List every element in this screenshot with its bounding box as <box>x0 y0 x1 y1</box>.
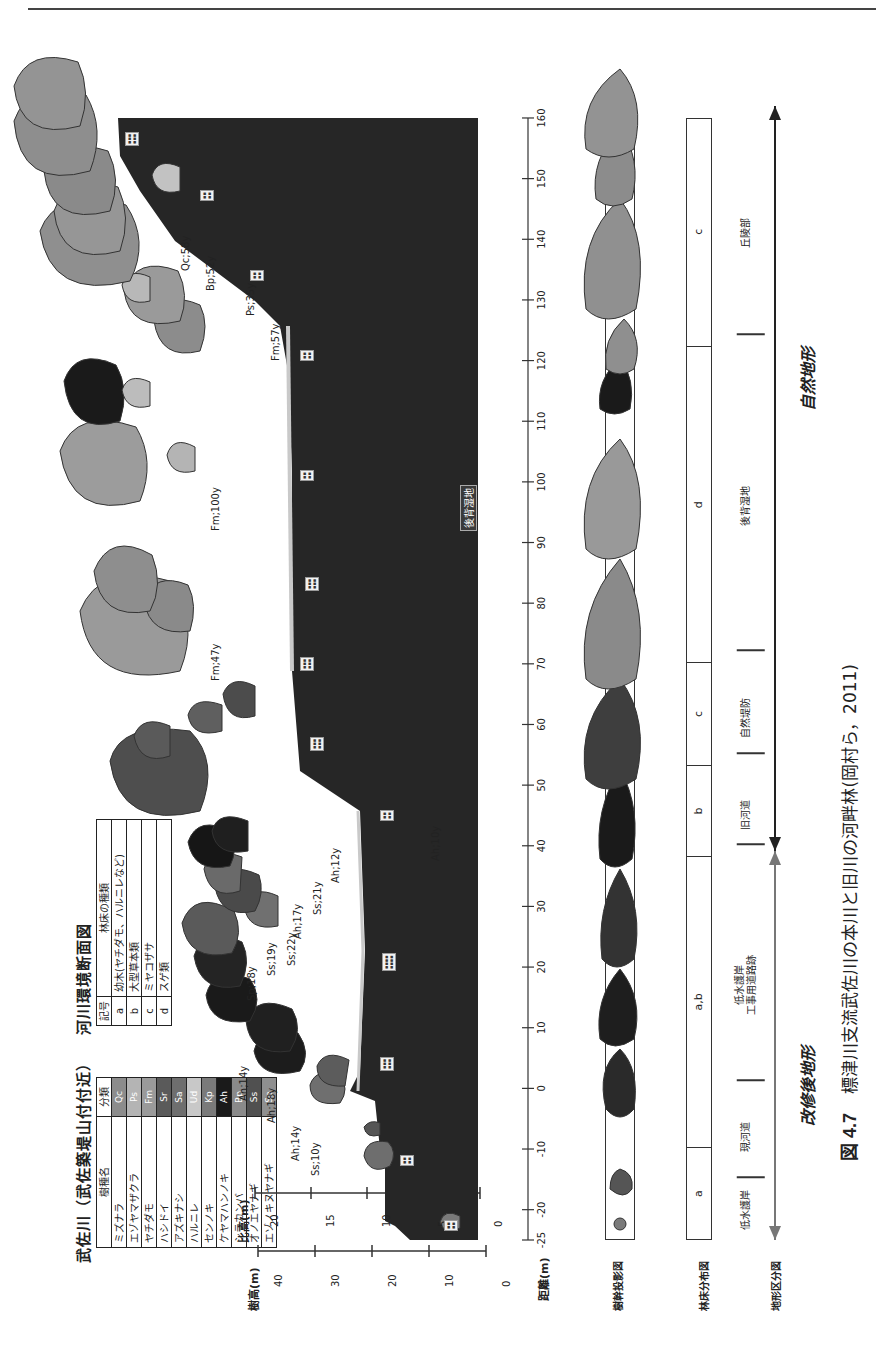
terrain-tag: ▪▪▪▪▪▪ <box>380 1057 394 1071</box>
floor-distribution-bar: aa,bbcdc <box>686 118 712 1240</box>
distance-tick-label: 140 <box>536 230 547 249</box>
distance-tick-labels: -25-20-100102030405060708090100110120130… <box>536 0 550 1371</box>
tree-label: Ah;12y <box>330 848 341 883</box>
landform-zone-label: 旧河道 <box>740 800 752 830</box>
floor-distribution-label: d <box>692 501 705 508</box>
caption-text: 標津川支流武佐川の本川と旧川の河畔林(岡村ら，2011) <box>840 664 860 1094</box>
distance-tick-label: 120 <box>536 351 547 370</box>
distance-tick-label: 40 <box>536 839 547 852</box>
landform-zone-label: 自然堤防 <box>740 698 752 738</box>
relative-height-ticks: 20 15 10 5 0 <box>247 1214 527 1227</box>
tree-label: Ah;18y <box>266 1088 277 1123</box>
relative-height-tick: 0 <box>471 1214 527 1227</box>
distance-tick-label: -25 <box>536 1232 547 1248</box>
relative-height-tick: 20 <box>247 1214 303 1227</box>
modified-landform-arrow <box>769 851 781 1240</box>
tree-height-tick: 30 <box>307 1274 364 1287</box>
figure-caption: 図 4.7 標津川支流武佐川の本川と旧川の河畔林(岡村ら，2011) <box>835 664 861 1161</box>
distance-tick-label: 80 <box>536 597 547 610</box>
projection-row-label: 樹幹投影図 <box>610 1261 625 1311</box>
tree-label: Ss;10y <box>310 1142 321 1176</box>
floor-distribution-label: b <box>692 807 705 814</box>
tree-label: Ah;14y <box>238 1066 249 1101</box>
terrain-tag: ▪▪▪▪▪▪ <box>125 132 139 146</box>
tree-label: Qc;58y <box>180 236 191 271</box>
distance-tick-label: 10 <box>536 1021 547 1034</box>
floor-distribution-cell: c <box>687 117 711 347</box>
landform-arrows <box>755 0 795 1371</box>
tree-height-tick: 0 <box>478 1274 535 1287</box>
floor-distribution-label: c <box>692 229 705 235</box>
landform-zone-label: 後背湿地 <box>740 486 752 526</box>
crown-projection-canvas <box>606 117 634 1239</box>
distance-tick-label: 160 <box>536 108 547 127</box>
distance-tick-label: 20 <box>536 961 547 974</box>
terrain-tag: ▪▪▪▪ <box>300 350 314 361</box>
tree-height-tick: 20 <box>364 1274 421 1287</box>
tree-height-tick: 10 <box>421 1274 478 1287</box>
floor-distribution-cell: a <box>687 1148 711 1239</box>
tree-label: Ah;10y <box>430 826 441 861</box>
terrain-annotation: 後背湿地 <box>460 485 477 531</box>
distance-tick-label: 110 <box>536 412 547 431</box>
distance-tick-label: -10 <box>536 1141 547 1157</box>
terrain-tag: ▪▪▪▪ <box>300 470 314 481</box>
caption-number: 図 4.7 <box>840 1113 860 1161</box>
distance-tick-label: 50 <box>536 779 547 792</box>
floor-distribution-cell: b <box>687 766 711 857</box>
distance-tick-label: 150 <box>536 169 547 188</box>
natural-landform-arrow <box>769 106 781 851</box>
tree-label: Bp;52y <box>205 256 216 291</box>
terrain-tag: ▪▪▪▪ <box>380 810 394 821</box>
relative-height-tick: 10 <box>359 1214 415 1227</box>
landform-zone-label: 現河道 <box>740 1122 752 1152</box>
terrain-tag: ▪▪▪▪ <box>250 270 264 281</box>
floor-distribution-label: a <box>692 1190 705 1197</box>
terrain-tag: ▪▪▪▪ <box>200 190 214 201</box>
distance-tick-label: 130 <box>536 290 547 309</box>
natural-landform-label: 自然地形 <box>795 347 819 411</box>
tree-label: Ss;21y <box>312 881 323 915</box>
distance-tick-label: 0 <box>536 1085 547 1091</box>
terrain-tag: ▪▪▪▪ <box>444 1220 458 1231</box>
floor-distribution-label: a,b <box>692 993 705 1010</box>
tree-height-ticks: 40 30 20 10 0 <box>250 1274 535 1287</box>
tree-label: Ah;17y <box>292 904 303 939</box>
tree-label: Sp;18y <box>246 966 257 1001</box>
terrain-tag: ▪▪▪▪▪▪ <box>310 737 324 751</box>
relative-height-tick: 5 <box>415 1214 471 1227</box>
tree-label: Fm;57y <box>270 323 281 361</box>
terrain-tag: ▪▪▪▪▪▪▪▪ <box>382 953 396 971</box>
terrain-tag: ▪▪▪▪ <box>400 1155 414 1166</box>
distance-tick-label: 90 <box>536 536 547 549</box>
distance-tick-label: -20 <box>536 1202 547 1218</box>
distance-tick-label: 60 <box>536 718 547 731</box>
floor-distribution-row-label: 林床分布図 <box>696 1261 711 1311</box>
floor-distribution-cell: c <box>687 663 711 766</box>
distance-tick-label: 100 <box>536 472 547 491</box>
relative-height-tick: 15 <box>303 1214 359 1227</box>
crown-projection-strip <box>605 116 635 1240</box>
tree-label: Ah;14y <box>290 1126 301 1161</box>
tree-label: Ss;19y <box>266 942 277 976</box>
floor-distribution-label: c <box>692 711 705 717</box>
distance-tick-label: 70 <box>536 657 547 670</box>
terrain-tag: ▪▪▪▪▪▪ <box>300 657 314 671</box>
tree-height-tick: 40 <box>250 1274 307 1287</box>
landform-zone-label: 低水護岸 <box>740 1190 752 1230</box>
figure-stage: 武佐川（武佐築堤山付付近） 河川環境断面図 樹種名 分類 ミズナラQcエゾヤマザ… <box>0 0 876 1371</box>
floor-distribution-cell: d <box>687 347 711 662</box>
terrain-tag: ▪▪▪▪▪▪ <box>305 577 319 591</box>
landform-zone-label: 丘陵部 <box>740 218 752 248</box>
modified-landform-label: 改修後地形 <box>795 1046 819 1126</box>
tree-label: Fm;47y <box>210 643 221 681</box>
tree-label: Ps;35y <box>245 283 256 316</box>
distance-tick-label: 30 <box>536 900 547 913</box>
tree-label: Fm;100y <box>210 487 221 531</box>
floor-distribution-cell: a,b <box>687 857 711 1148</box>
tree-height-axis <box>258 1245 486 1257</box>
